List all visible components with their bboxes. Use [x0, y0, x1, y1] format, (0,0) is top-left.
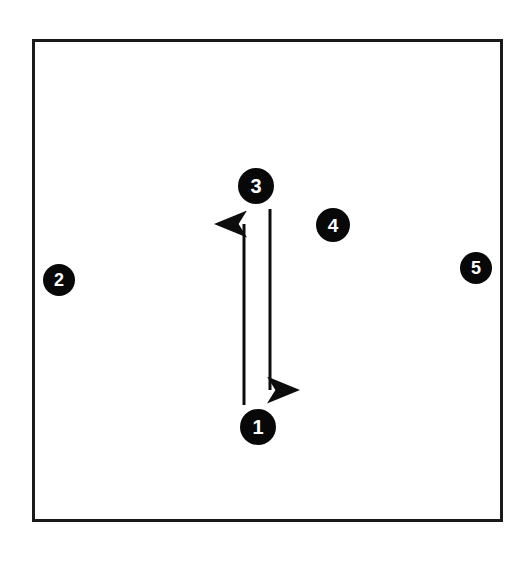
node-4-label: 4: [328, 215, 339, 234]
node-4[interactable]: 4: [316, 208, 350, 242]
arrow-layer: [0, 0, 530, 562]
node-1[interactable]: 1: [240, 409, 276, 445]
node-2-label: 2: [54, 271, 64, 289]
node-2[interactable]: 2: [43, 264, 75, 296]
node-5-label: 5: [471, 259, 481, 277]
node-5[interactable]: 5: [460, 252, 492, 284]
node-1-label: 1: [252, 417, 263, 437]
diagram-canvas: 3 4 2 5 1: [0, 0, 530, 562]
node-3-label: 3: [250, 176, 261, 196]
node-3[interactable]: 3: [238, 168, 274, 204]
